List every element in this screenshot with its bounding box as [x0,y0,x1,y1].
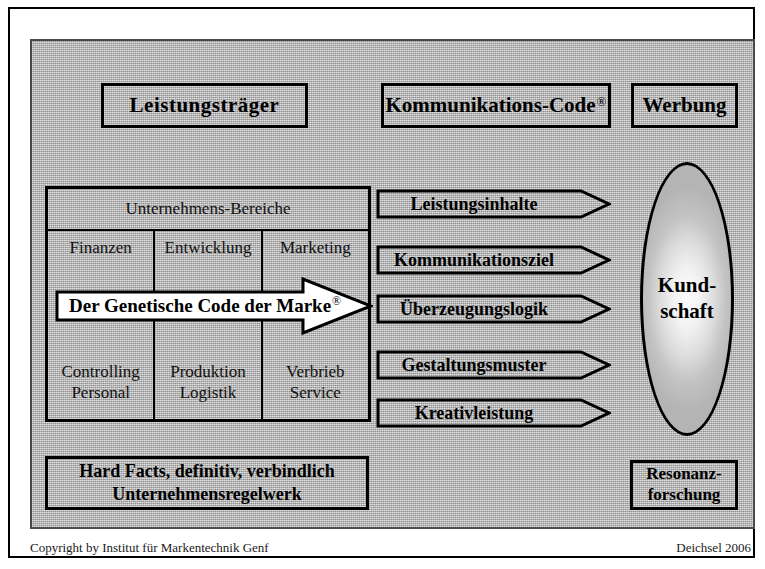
chevron-kommunikationsziel: Kommunikationsziel [376,245,611,275]
box-resonanzforschung-line2: forschung [648,485,721,506]
ellipse-kundschaft: Kund- schaft [640,162,734,436]
box-hard-facts: Hard Facts, definitiv, verbindlich Unter… [45,456,369,510]
table-cell-produktion: Produktion [155,361,260,382]
chevron-kreativleistung: Kreativleistung [376,398,611,428]
chevron-ueberzeugungslogik: Überzeugungslogik [376,294,611,324]
box-kommunikations-code-label: Kommunikations-Code [386,93,596,118]
table-cell-controlling: Controlling [48,361,153,382]
table-cell-verbrieb: Verbrieb [263,361,368,382]
ellipse-kundschaft-line2: schaft [658,299,716,325]
chevron-leistungsinhalte: Leistungsinhalte [376,189,611,219]
chevron-kommunikationsziel-label: Kommunikationsziel [394,250,554,271]
chevron-label-wrap: Leistungsinhalte [376,189,572,219]
table-cell-produktion-logistik: Produktion Logistik [155,361,260,404]
arrow-genetic-code-label: Der Genetische Code der Marke [69,295,331,317]
box-leistungstraeger-label: Leistungsträger [130,93,280,118]
box-hard-facts-line1: Hard Facts, definitiv, verbindlich [79,460,335,483]
box-werbung: Werbung [631,83,738,128]
footer: Copyright by Institut für Markentechnik … [30,536,755,560]
table-header-label: Unternehmens-Bereiche [125,199,290,219]
chevron-gestaltungsmuster: Gestaltungsmuster [376,350,611,380]
outer-frame: Leistungsträger Kommunikations-Code® Wer… [8,7,755,558]
chevron-label-wrap: Kreativleistung [376,398,572,428]
box-leistungstraeger: Leistungsträger [101,83,308,128]
diagram-root: Leistungsträger Kommunikations-Code® Wer… [0,0,765,569]
chevron-label-wrap: Überzeugungslogik [376,294,572,324]
arrow-genetic-code: Der Genetische Code der Marke® [55,277,373,335]
table-header-unternehmens-bereiche: Unternehmens-Bereiche [48,189,368,231]
ellipse-kundschaft-line1: Kund- [658,273,716,299]
chevron-kreativleistung-label: Kreativleistung [415,403,534,424]
table-cell-verbrieb-service: Verbrieb Service [263,361,368,404]
chevron-leistungsinhalte-label: Leistungsinhalte [410,194,537,215]
footer-author-year: Deichsel 2006 [676,540,755,556]
box-kommunikations-code: Kommunikations-Code® [381,83,611,128]
table-cell-controlling-personal: Controlling Personal [48,361,153,404]
box-hard-facts-line2: Unternehmensregelwerk [112,483,302,506]
table-cell-finanzen: Finanzen [48,237,153,258]
table-cell-logistik: Logistik [155,382,260,403]
box-werbung-label: Werbung [642,93,726,118]
table-cell-marketing: Marketing [263,237,368,258]
table-cell-entwicklung: Entwicklung [155,237,260,258]
table-cell-service: Service [263,382,368,403]
chevron-label-wrap: Kommunikationsziel [376,245,572,275]
arrow-genetic-code-label-wrap: Der Genetische Code der Marke® [69,277,341,335]
table-cell-personal: Personal [48,382,153,403]
ellipse-kundschaft-label-wrap: Kund- schaft [658,273,716,324]
box-resonanzforschung-line1: Resonanz- [646,464,722,485]
box-resonanzforschung: Resonanz- forschung [630,460,738,510]
chevron-ueberzeugungslogik-label: Überzeugungslogik [400,299,548,320]
chevron-label-wrap: Gestaltungsmuster [376,350,572,380]
chevron-gestaltungsmuster-label: Gestaltungsmuster [402,355,547,376]
footer-copyright: Copyright by Institut für Markentechnik … [30,540,269,556]
